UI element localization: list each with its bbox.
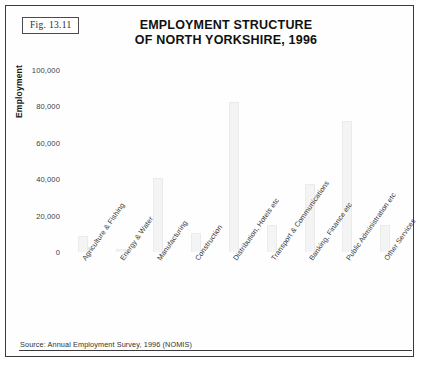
y-tick-label: 60,000 (14, 138, 60, 147)
y-axis-tick-labels: 100,00080,00060,00040,00020,0000 (10, 70, 60, 252)
y-tick-label: 40,000 (14, 175, 60, 184)
chart-title-line-1: EMPLOYMENT STRUCTURE (76, 18, 376, 33)
bar (229, 102, 239, 252)
bar (342, 121, 352, 252)
source-note: Source: Annual Employment Survey, 1996 (… (20, 340, 192, 349)
chart-title-line-2: OF NORTH YORKSHIRE, 1996 (76, 33, 376, 48)
figure-number-label: Fig. 13.11 (22, 17, 79, 34)
y-tick-label: 100,000 (14, 66, 60, 75)
plot-area (64, 70, 404, 252)
chart-title: EMPLOYMENT STRUCTURE OF NORTH YORKSHIRE,… (76, 18, 376, 48)
bar (153, 178, 163, 252)
x-axis-category-labels: Agriculture & FishingEnergy & WaterManuf… (64, 255, 409, 350)
figure-page: Fig. 13.11 EMPLOYMENT STRUCTURE OF NORTH… (0, 0, 421, 365)
y-tick-label: 0 (14, 248, 60, 257)
y-tick-label: 80,000 (14, 102, 60, 111)
y-tick-label: 20,000 (14, 211, 60, 220)
source-divider (19, 350, 412, 351)
figure-frame: Fig. 13.11 EMPLOYMENT STRUCTURE OF NORTH… (5, 5, 414, 357)
